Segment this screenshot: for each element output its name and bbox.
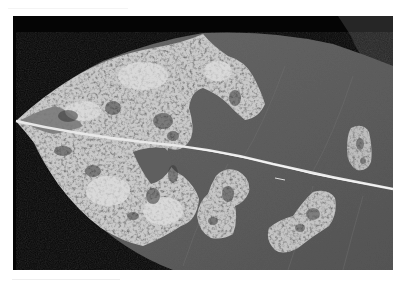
scan-edge-line-bottom [12, 279, 120, 280]
scan-edge-line [8, 8, 128, 9]
leaf-photograph [13, 16, 393, 270]
